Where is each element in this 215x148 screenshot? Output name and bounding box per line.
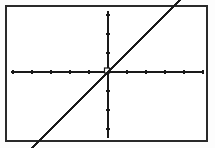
plot-canvas[interactable] xyxy=(0,0,215,148)
calculator-screenshot: y = x xyxy=(0,0,215,148)
